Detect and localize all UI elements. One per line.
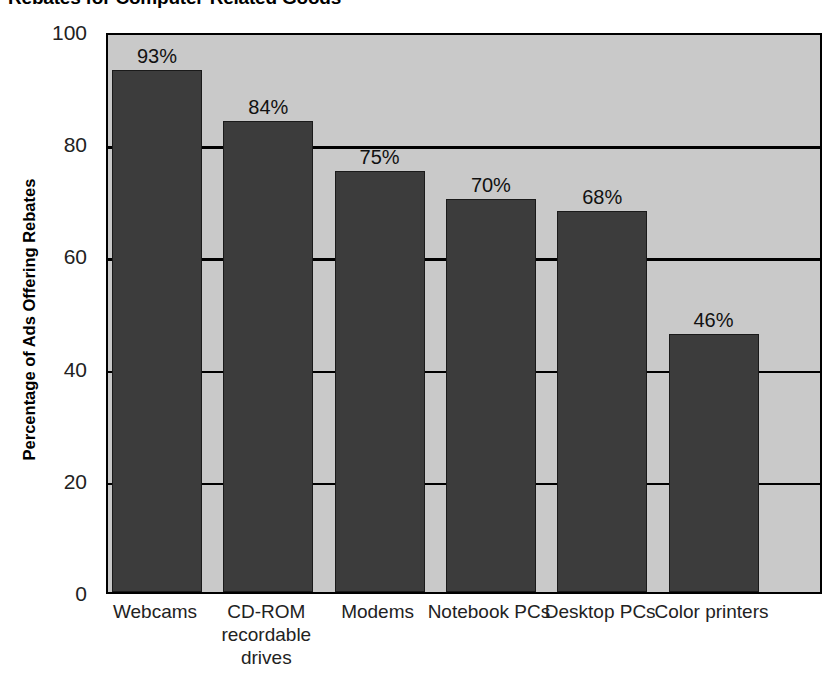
gridline-80 [108,146,820,149]
bar-4 [446,199,536,592]
y-axis-tick-labels: 020406080100 [0,0,106,691]
y-tick-label-60: 60 [64,246,87,267]
plot-inner: 93%84%75%70%68%46% [108,35,820,592]
y-tick-label-0: 0 [75,583,87,604]
x-axis-tick-labels: WebcamsCD-ROMrecordabledrivesModemsNoteb… [106,600,822,690]
bar-2 [223,121,313,592]
y-tick-label-20: 20 [64,471,87,492]
y-tick-label-80: 80 [64,134,87,155]
bar-value-label-6: 46% [659,310,769,330]
bar-3 [335,171,425,592]
bar-value-label-2: 84% [213,97,323,117]
x-tick-label-6-line-1: Color printers [645,600,779,623]
bar-5 [557,211,647,592]
bar-value-label-1: 93% [102,46,212,66]
y-tick-label-100: 100 [52,22,87,43]
bar-1 [112,70,202,592]
bar-6 [669,334,759,592]
plot-area: 93%84%75%70%68%46% [106,33,822,594]
bar-value-label-5: 68% [547,187,657,207]
chart-figure: Rebates for Computer-Related Goods Perce… [0,0,828,691]
x-tick-label-2-line-2: recordable [199,623,333,646]
x-tick-label-2-line-3: drives [199,646,333,669]
bar-value-label-4: 70% [436,175,546,195]
bar-value-label-3: 75% [325,147,435,167]
y-tick-label-40: 40 [64,359,87,380]
x-tick-label-6: Color printers [645,600,779,623]
